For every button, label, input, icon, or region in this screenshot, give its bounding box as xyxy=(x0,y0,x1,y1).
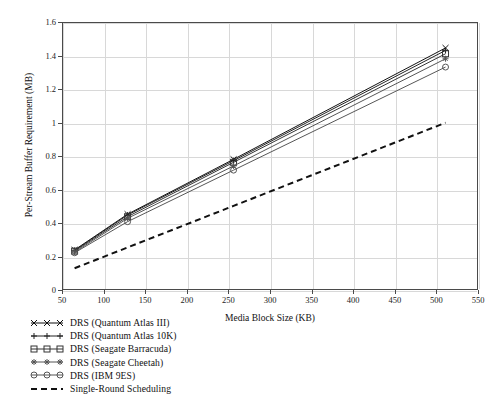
legend-key-plus-icon xyxy=(30,330,64,342)
y-tick-mark xyxy=(58,123,62,124)
x-tick-mark xyxy=(187,290,188,294)
legend-item: DRS (Quantum Atlas 10K) xyxy=(30,329,177,342)
x-axis-label-text: Media Block Size (KB) xyxy=(225,313,315,323)
series-lines xyxy=(63,23,477,289)
legend-key-star-icon xyxy=(30,356,64,368)
y-tick-mark xyxy=(58,257,62,258)
legend-item: DRS (Quantum Atlas III) xyxy=(30,316,177,329)
legend-label: DRS (IBM 9ES) xyxy=(64,370,135,381)
legend-label: DRS (Seagate Barracuda) xyxy=(64,343,171,354)
legend-item: DRS (Seagate Barracuda) xyxy=(30,342,177,355)
x-tick-label: 400 xyxy=(338,295,368,305)
x-tick-label: 500 xyxy=(421,295,451,305)
legend-label: Single-Round Scheduling xyxy=(64,383,171,394)
x-tick-label: 550 xyxy=(463,295,493,305)
x-tick-mark xyxy=(436,290,437,294)
legend-item: DRS (Seagate Cheetah) xyxy=(30,356,177,369)
x-tick-mark xyxy=(104,290,105,294)
x-tick-label: 350 xyxy=(297,295,327,305)
series-3 xyxy=(72,56,449,255)
x-tick-mark xyxy=(395,290,396,294)
y-tick-mark xyxy=(58,290,62,291)
y-tick-label: 0 xyxy=(30,285,56,295)
y-tick-mark xyxy=(58,56,62,57)
series-line xyxy=(75,123,446,268)
legend-key-square-icon xyxy=(30,343,64,355)
x-tick-mark xyxy=(62,290,63,294)
x-tick-label: 150 xyxy=(130,295,160,305)
chart-figure: 5010015020025030035040045050055000.20.40… xyxy=(0,0,498,408)
legend-label: DRS (Quantum Atlas 10K) xyxy=(64,330,177,341)
gridline-vertical xyxy=(479,23,480,289)
legend-item: Single-Round Scheduling xyxy=(30,382,177,395)
x-tick-label: 300 xyxy=(255,295,285,305)
legend-key-x-icon xyxy=(30,317,64,329)
series-line xyxy=(75,67,446,253)
x-tick-mark xyxy=(228,290,229,294)
x-tick-label: 100 xyxy=(89,295,119,305)
y-tick-mark xyxy=(58,156,62,157)
x-tick-mark xyxy=(270,290,271,294)
legend-label: DRS (Quantum Atlas III) xyxy=(64,317,170,328)
y-tick-mark xyxy=(58,89,62,90)
data-point-marker xyxy=(443,64,449,70)
x-tick-mark xyxy=(145,290,146,294)
legend-label: DRS (Seagate Cheetah) xyxy=(64,357,163,368)
legend-key-none-icon xyxy=(30,383,64,395)
y-tick-mark xyxy=(58,223,62,224)
y-tick-mark xyxy=(58,22,62,23)
legend: DRS (Quantum Atlas III)DRS (Quantum Atla… xyxy=(30,316,177,395)
x-tick-label: 200 xyxy=(172,295,202,305)
series-4 xyxy=(72,64,449,256)
x-tick-label: 250 xyxy=(213,295,243,305)
y-tick-label: 1.6 xyxy=(30,17,56,27)
x-tick-mark xyxy=(312,290,313,294)
x-tick-label: 450 xyxy=(380,295,410,305)
x-tick-mark xyxy=(353,290,354,294)
legend-item: DRS (IBM 9ES) xyxy=(30,369,177,382)
plot-area xyxy=(62,22,478,290)
series-1 xyxy=(72,47,449,253)
x-tick-mark xyxy=(478,290,479,294)
series-5 xyxy=(75,123,446,268)
y-axis-label: Per-Stream Buffer Requirement (MB) xyxy=(24,30,34,260)
legend-key-circle-icon xyxy=(30,369,64,381)
y-tick-mark xyxy=(58,190,62,191)
x-tick-label: 50 xyxy=(47,295,77,305)
